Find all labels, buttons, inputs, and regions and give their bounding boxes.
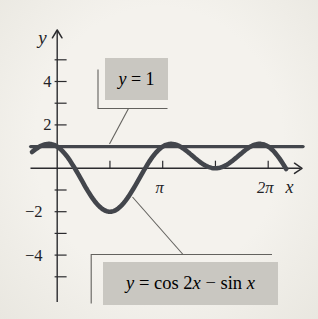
formula-mid1: = cos 2 [134,274,192,293]
annotation-formula: y = cos 2x − sin x [103,262,278,305]
formula-x1: x [193,274,201,293]
leader-line-formula [133,197,184,255]
y-axis-tick-label: −4 [25,246,43,265]
leader-line-y1 [110,109,129,145]
x-axis-label: x [285,177,294,197]
x-axis-tick-label: 2π [257,178,274,197]
annotation-var: y [118,70,126,88]
annotation-y-equals-1: y = 1 [105,58,168,100]
y-axis-tick-label: 4 [43,72,51,91]
y-axis-label: y [36,27,47,48]
formula-x2: x [247,274,255,293]
formula-var: y [126,274,134,293]
y-axis-tick-label: −2 [25,202,43,221]
y-axis-tick-label: 2 [43,115,51,134]
textbook-figure: π2π42−2−4 y x y = 1 y = cos 2x − sin x [0,0,318,319]
annotation-equals: = [126,70,145,88]
x-axis-tick-label: π [156,178,165,197]
annotation-value: 1 [146,70,155,88]
formula-mid2: − sin [201,274,247,293]
